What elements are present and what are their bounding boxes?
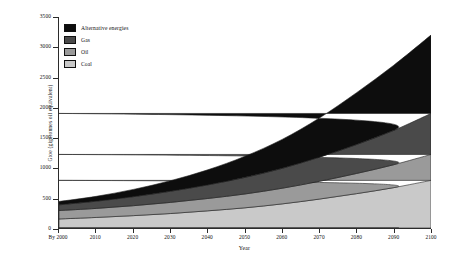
legend-item: Alternative energies: [64, 22, 129, 33]
legend-swatch-icon: [64, 48, 76, 56]
legend-item: Gas: [64, 34, 129, 45]
x-axis-tick-label: 2020: [127, 235, 138, 240]
stacked-area-chart: Gtoe (gigatonnes oil equivalent) 0500100…: [0, 0, 457, 268]
y-axis-tick-label: 3000: [40, 45, 51, 50]
y-axis-tick-label: 2500: [40, 75, 51, 80]
x-axis-tick-mark: [245, 229, 246, 233]
y-axis-tick-label: 1000: [40, 166, 51, 171]
chart-legend: Alternative energiesGasOilCoal: [64, 22, 129, 70]
y-axis-tick-label: 1500: [40, 135, 51, 140]
x-axis-tick-label: 2010: [90, 235, 101, 240]
legend-swatch-icon: [64, 36, 76, 44]
y-axis-title: Gtoe (gigatonnes oil equivalent): [47, 84, 53, 161]
legend-item-label: Gas: [81, 37, 90, 43]
legend-item: Coal: [64, 58, 129, 69]
x-axis-title: Year: [58, 245, 431, 251]
x-axis-tick-mark: [356, 229, 357, 233]
x-axis-tick-label: 2070: [314, 235, 325, 240]
x-axis-tick-label: By 2000: [48, 235, 67, 240]
y-axis-tick-label: 0: [48, 226, 51, 231]
x-axis-tick-label: 2080: [351, 235, 362, 240]
x-axis-tick-mark: [431, 229, 432, 233]
x-axis-tick-label: 2100: [425, 235, 436, 240]
legend-item: Oil: [64, 46, 129, 57]
x-axis-tick-mark: [58, 229, 59, 233]
x-axis-tick-label: 2040: [202, 235, 213, 240]
legend-swatch-icon: [64, 24, 76, 32]
x-axis-tick-mark: [170, 229, 171, 233]
x-axis-tick-mark: [394, 229, 395, 233]
x-axis-tick-mark: [95, 229, 96, 233]
y-axis-tick-label: 3500: [40, 14, 51, 19]
x-axis-tick-mark: [282, 229, 283, 233]
x-axis-tick-mark: [207, 229, 208, 233]
legend-item-label: Alternative energies: [81, 25, 129, 31]
x-axis-tick-mark: [319, 229, 320, 233]
legend-item-label: Oil: [81, 49, 89, 55]
y-axis-tick-label: 500: [43, 196, 51, 201]
legend-item-label: Coal: [81, 61, 92, 67]
legend-swatch-icon: [64, 60, 76, 68]
x-axis-tick-mark: [133, 229, 134, 233]
y-axis-title-container: Gtoe (gigatonnes oil equivalent): [14, 17, 28, 229]
x-axis-tick-label: 2060: [276, 235, 287, 240]
x-axis-tick-label: 2090: [388, 235, 399, 240]
x-axis-tick-label: 2030: [164, 235, 175, 240]
y-axis-tick-label: 2000: [40, 105, 51, 110]
x-axis-tick-label: 2050: [239, 235, 250, 240]
